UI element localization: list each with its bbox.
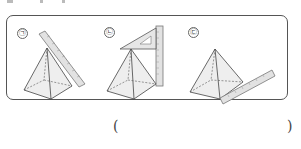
figure-1-pyramid-ruler [10,20,100,100]
figure-2-pyramid-set-square [90,20,180,100]
cropped-mark [40,0,43,3]
cropped-mark [62,0,65,3]
answer-blank[interactable] [125,118,285,136]
cropped-mark [7,0,13,3]
figure-3-pyramid-ruler-base [180,20,290,105]
answer-close-paren: ) [287,118,292,134]
answer-open-paren: ( [113,118,118,134]
